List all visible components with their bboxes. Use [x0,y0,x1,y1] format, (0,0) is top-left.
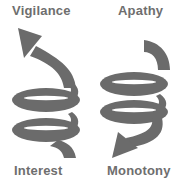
spiral-arrow-up-icon [12,28,80,158]
spiral-diagram [0,0,179,182]
spiral-arrow-down-icon [100,40,170,158]
